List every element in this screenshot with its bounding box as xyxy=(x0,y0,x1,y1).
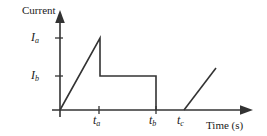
y-tick-label-Ib-sub: b xyxy=(35,74,39,83)
x-tick-label-ta-sub: a xyxy=(96,119,100,128)
y-axis-title: Current xyxy=(22,5,56,16)
pulse-waveform-line xyxy=(60,38,156,110)
x-tick-label-tb: tb xyxy=(149,114,156,126)
x-tick-label-ta: ta xyxy=(93,114,100,126)
second-ramp-line xyxy=(184,68,216,110)
x-axis-title: Time (s) xyxy=(206,120,243,131)
y-tick-label-Ia: Ia xyxy=(31,31,39,43)
x-tick-label-tb-sub: b xyxy=(152,119,156,128)
x-tick-label-tc-sub: c xyxy=(180,119,184,128)
x-tick-label-tc: tc xyxy=(177,114,184,126)
x-axis-arrowhead xyxy=(240,105,253,115)
current-vs-time-chart: Current Time (s) Ia Ib ta tb tc xyxy=(0,0,267,136)
y-tick-label-Ib: Ib xyxy=(31,69,39,81)
y-axis-arrowhead xyxy=(55,10,65,23)
chart-plot-area xyxy=(0,0,267,136)
y-tick-label-Ia-sub: a xyxy=(35,36,39,45)
